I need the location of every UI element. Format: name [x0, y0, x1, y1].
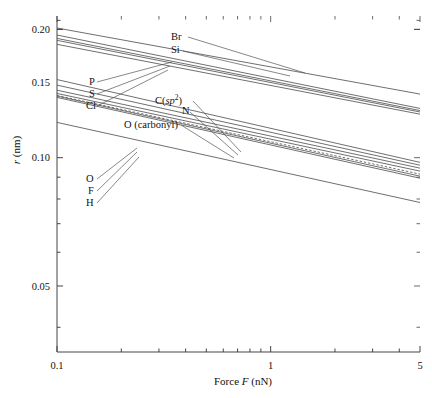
x-tick-label: 0.1 — [50, 360, 63, 371]
data-line-s — [57, 40, 420, 112]
data-line-h — [57, 97, 420, 178]
x-tick-label: 5 — [417, 360, 422, 371]
y-tick-label: 0.10 — [32, 152, 50, 163]
leader-line — [97, 157, 139, 203]
x-tick-label: 1 — [268, 360, 273, 371]
series-labels-group: BrSiPSClC(sp2)NO (carbonyl)OFH — [86, 31, 190, 208]
data-line-cl — [57, 44, 420, 114]
series-label-f: F — [88, 185, 94, 196]
data-line-p — [57, 38, 420, 110]
data-line-o — [57, 93, 420, 171]
tick-marks-group — [57, 16, 420, 352]
data-line-c-sp2 — [57, 80, 420, 163]
data-line-f2 — [57, 96, 420, 176]
series-label-p: P — [89, 76, 95, 87]
data-line-br — [57, 28, 420, 94]
series-label-h: H — [86, 197, 94, 208]
series-label-cl: Cl — [86, 100, 96, 111]
leader-line — [97, 152, 137, 191]
series-label-s: S — [89, 88, 95, 99]
x-axis-label: Force F (nN) — [214, 375, 272, 388]
series-label-o-carbonyl: O (carbonyl) — [124, 119, 178, 131]
series-label-si: Si — [171, 44, 180, 55]
data-lines-group — [57, 28, 420, 202]
data-line-o-carbonyl — [57, 90, 420, 168]
series-label-br: Br — [171, 31, 182, 42]
axes-group — [57, 16, 420, 352]
y-tick-label: 0.15 — [32, 77, 50, 88]
chart-figure: 0.1150.050.100.150.20 BrSiPSClC(sp2)NO (… — [0, 0, 432, 398]
y-tick-label: 0.20 — [32, 24, 50, 35]
leader-line — [97, 62, 172, 82]
log-log-line-chart: 0.1150.050.100.150.20 BrSiPSClC(sp2)NO (… — [0, 0, 432, 398]
leader-line — [97, 148, 137, 179]
series-label-n: N — [182, 105, 190, 116]
y-tick-label: 0.05 — [32, 281, 50, 292]
y-axis-label: r (nm) — [10, 135, 23, 164]
leader-line — [97, 66, 170, 94]
series-label-c-sp: C(sp2) — [155, 93, 183, 108]
series-label-o: O — [86, 173, 94, 184]
